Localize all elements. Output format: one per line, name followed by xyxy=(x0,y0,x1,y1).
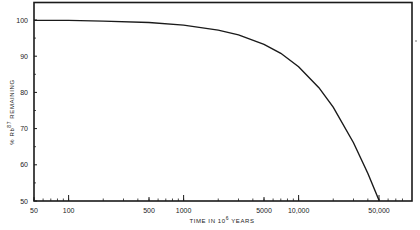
y-tick-label: 60 xyxy=(20,161,28,168)
y-tick-label: 70 xyxy=(20,125,28,132)
x-tick-label: 10,000 xyxy=(288,207,310,214)
x-axis-ticks: 501005001000500010,00050,000 xyxy=(30,195,402,214)
decay-curve xyxy=(34,20,379,201)
y-tick-label: 90 xyxy=(20,53,28,60)
x-tick-label: 50,000 xyxy=(368,207,390,214)
x-axis-title: TIME IN 106 YEARS xyxy=(189,215,254,224)
x-tick-label: 100 xyxy=(63,207,75,214)
y-axis-title: % Rb87 REMAINING xyxy=(6,79,15,145)
y-tick-label: 80 xyxy=(20,89,28,96)
x-tick-label: 1000 xyxy=(176,207,192,214)
stray-mark xyxy=(415,40,416,41)
plot-frame xyxy=(34,3,412,202)
x-tick-label: 50 xyxy=(30,207,38,214)
x-tick-label: 500 xyxy=(143,207,155,214)
y-tick-label: 50 xyxy=(20,198,28,205)
y-tick-label: 100 xyxy=(16,17,28,24)
x-tick-label: 5000 xyxy=(256,207,272,214)
decay-chart: 5060708090100 501005001000500010,00050,0… xyxy=(0,0,420,230)
